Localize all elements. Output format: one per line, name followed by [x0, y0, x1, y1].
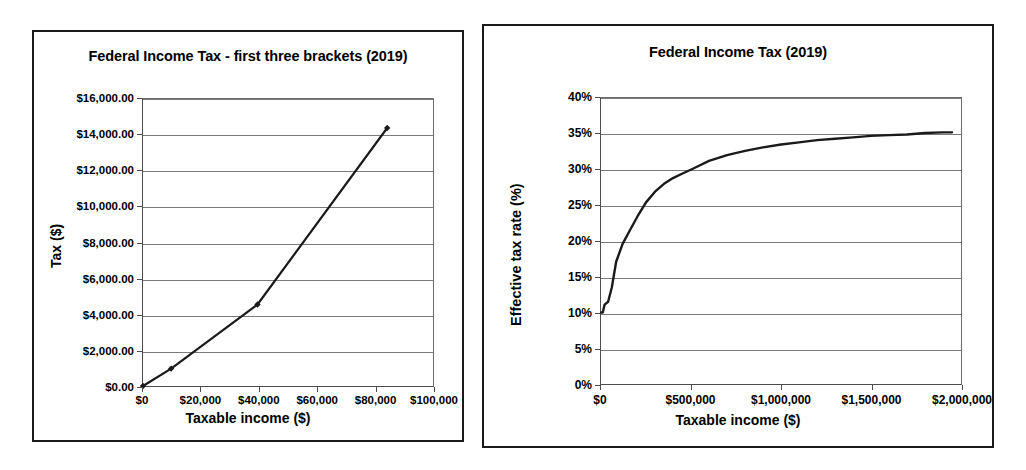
y-axis-title-left: Tax ($) [48, 224, 64, 268]
y-tick-label: 20% [568, 234, 592, 248]
series-line-right [601, 98, 961, 384]
x-tick-label: $0 [593, 393, 606, 407]
y-tick-mark [137, 279, 142, 280]
x-tick-mark [200, 387, 201, 392]
y-tick-label: $8,000.00 [83, 237, 134, 249]
y-tick-label: 10% [568, 306, 592, 320]
y-tick-label: $10,000.00 [76, 200, 134, 212]
x-tick-label: $60,000 [296, 394, 338, 406]
chart-federal-income-tax-brackets: Federal Income Tax - first three bracket… [34, 32, 462, 440]
y-tick-mark [595, 205, 600, 206]
x-tick-label: $100,000 [410, 394, 458, 406]
y-tick-mark [137, 134, 142, 135]
y-tick-label: 15% [568, 270, 592, 284]
x-tick-label: $2,000,000 [932, 393, 992, 407]
x-tick-label: $1,500,000 [841, 393, 901, 407]
y-tick-mark [595, 97, 600, 98]
y-tick-mark [595, 133, 600, 134]
y-tick-label: $4,000.00 [83, 309, 134, 321]
x-tick-mark [691, 385, 692, 390]
y-tick-label: $12,000.00 [76, 164, 134, 176]
x-tick-mark [600, 385, 601, 390]
y-tick-label: 5% [575, 342, 592, 356]
plot-area-right [600, 97, 962, 385]
y-tick-label: $6,000.00 [83, 273, 134, 285]
y-tick-mark [137, 206, 142, 207]
y-tick-mark [137, 170, 142, 171]
series-line-left [143, 99, 433, 386]
x-tick-mark [376, 387, 377, 392]
x-tick-label: $40,000 [238, 394, 280, 406]
y-tick-mark [595, 277, 600, 278]
x-tick-mark [962, 385, 963, 390]
y-tick-label: 30% [568, 162, 592, 176]
y-tick-label: 35% [568, 126, 592, 140]
y-tick-label: $16,000.00 [76, 92, 134, 104]
chart-federal-income-tax-effective-rate: Federal Income Tax (2019) 0%5%10%15%20%2… [484, 26, 992, 446]
x-tick-mark [259, 387, 260, 392]
y-axis-title-right: Effective tax rate (%) [508, 183, 524, 326]
screenshot-root: Federal Income Tax - first three bracket… [0, 0, 1026, 470]
x-tick-mark [142, 387, 143, 392]
chart-panel-right: Federal Income Tax (2019) 0%5%10%15%20%2… [482, 24, 994, 448]
x-tick-label: $80,000 [355, 394, 397, 406]
y-tick-label: $2,000.00 [83, 345, 134, 357]
chart-title-left: Federal Income Tax - first three bracket… [34, 48, 462, 64]
x-tick-label: $1,000,000 [751, 393, 811, 407]
y-tick-mark [137, 98, 142, 99]
y-tick-label: 0% [575, 378, 592, 392]
x-tick-label: $500,000 [665, 393, 715, 407]
x-axis-title-right: Taxable income ($) [484, 412, 992, 428]
chart-title-right: Federal Income Tax (2019) [484, 44, 992, 60]
y-tick-mark [137, 351, 142, 352]
y-tick-mark [137, 243, 142, 244]
y-tick-mark [595, 241, 600, 242]
y-tick-label: 40% [568, 90, 592, 104]
x-tick-mark [317, 387, 318, 392]
y-tick-mark [137, 315, 142, 316]
plot-area-left [142, 98, 434, 387]
x-tick-label: $20,000 [180, 394, 222, 406]
y-tick-label: 25% [568, 198, 592, 212]
y-tick-mark [595, 349, 600, 350]
x-tick-mark [434, 387, 435, 392]
x-tick-mark [781, 385, 782, 390]
x-tick-mark [872, 385, 873, 390]
x-tick-label: $0 [136, 394, 149, 406]
y-tick-label: $14,000.00 [76, 128, 134, 140]
y-tick-label: $0.00 [105, 381, 134, 393]
y-tick-mark [595, 169, 600, 170]
chart-panel-left: Federal Income Tax - first three bracket… [32, 30, 464, 442]
y-tick-mark [595, 313, 600, 314]
x-axis-title-left: Taxable income ($) [34, 410, 462, 426]
